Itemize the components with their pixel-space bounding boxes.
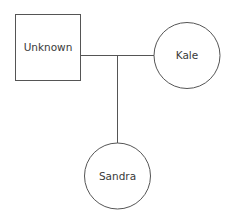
node-label-unknown: Unknown	[24, 41, 73, 53]
node-sandra[interactable]: Sandra	[85, 143, 151, 209]
node-kale[interactable]: Kale	[154, 23, 220, 89]
node-label-kale: Kale	[176, 49, 199, 61]
pedigree-diagram: Unknown Kale Sandra	[0, 0, 228, 217]
node-unknown[interactable]: Unknown	[16, 15, 81, 81]
node-label-sandra: Sandra	[99, 170, 136, 182]
